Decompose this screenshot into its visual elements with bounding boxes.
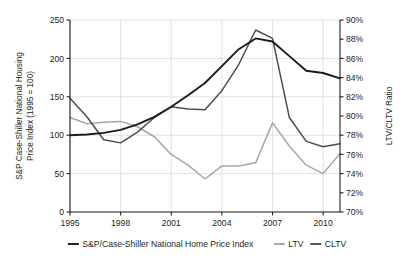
right-axis-tick-label: 84% [346,73,364,83]
x-axis-tick-label: 2007 [263,218,282,228]
right-axis-title: LTV/CLTV Ratio [385,86,394,145]
legend-label: CLTV [325,239,347,249]
right-axis-tick-label: 82% [346,92,364,102]
legend-item: S&P/Case-Shiller National Home Price Ind… [68,239,254,249]
right-axis-tick-label: 88% [346,34,364,44]
right-axis-tick-label: 76% [346,150,364,160]
x-axis-tick-label: 2001 [162,218,181,228]
left-axis-title-line1: S&P Case-Shiller National Housing [15,52,24,180]
left-axis-tick-label: 50 [54,169,64,179]
x-axis-tick-label: 1995 [60,218,79,228]
left-axis-tick-label: 100 [50,130,65,140]
x-axis-tick-label: 2010 [314,218,333,228]
x-axis-tick-label: 1998 [111,218,130,228]
left-axis-tick-label: 0 [59,207,64,217]
chart-figure: 050100150200250 70%72%74%76%78%80%82%84%… [0,0,405,263]
left-axis-tick-label: 250 [50,15,65,25]
right-axis-tick-label: 72% [346,188,364,198]
left-axis-title-line2: Price Index (1995 = 100) [26,71,35,161]
line-chart: 050100150200250 70%72%74%76%78%80%82%84%… [0,0,405,263]
left-axis-tick-label: 200 [50,54,65,64]
right-axis-tick-label: 86% [346,54,364,64]
x-axis-tick-label: 2004 [212,218,231,228]
right-axis-tick-label: 70% [346,207,364,217]
right-axis-tick-label: 90% [346,15,364,25]
right-axis-tick-label: 78% [346,130,364,140]
left-axis-tick-label: 150 [50,92,65,102]
legend-label: LTV [288,239,303,249]
right-axis-tick-label: 80% [346,111,364,121]
right-axis-tick-label: 74% [346,169,364,179]
legend-label: S&P/Case-Shiller National Home Price Ind… [82,239,254,249]
